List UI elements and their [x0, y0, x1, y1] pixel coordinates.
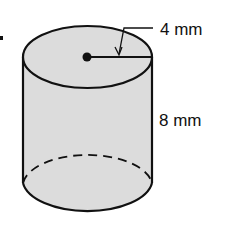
- radius-label: 4 mm: [160, 20, 203, 39]
- height-label: 8 mm: [159, 111, 202, 130]
- cylinder-diagram: 4 mm 8 mm: [0, 0, 239, 237]
- margin-dot: [0, 36, 3, 40]
